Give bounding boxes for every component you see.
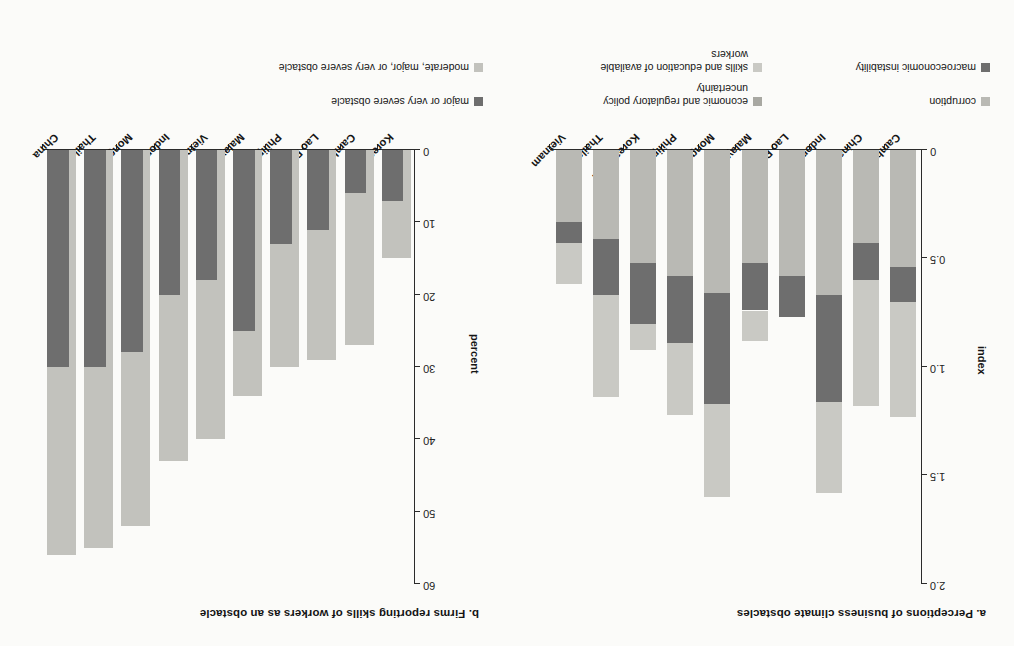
y-tick-label: 30 xyxy=(423,363,461,375)
bar-stack xyxy=(816,150,842,493)
y-tick xyxy=(922,583,927,584)
bar-segment xyxy=(556,150,582,222)
y-tick-label: 40 xyxy=(423,435,461,447)
legend-swatch-icon xyxy=(753,63,762,72)
bar-segment xyxy=(556,243,582,284)
legend-item[interactable]: macroeconomic instability xyxy=(772,62,990,75)
legend-label: major or very severe obstacle xyxy=(331,96,469,109)
legend-item[interactable]: skills and education of available worker… xyxy=(544,49,762,74)
y-tick-label: 60 xyxy=(423,580,461,592)
bar-segment xyxy=(816,150,842,295)
y-tick-label: 50 xyxy=(423,508,461,520)
panel-a-y-axis-title: index xyxy=(976,346,988,375)
bar-segment xyxy=(779,150,805,276)
bar-segment xyxy=(667,276,693,343)
y-tick-label: 20 xyxy=(423,291,461,303)
y-tick xyxy=(922,475,927,476)
bar-segment xyxy=(630,324,656,350)
y-tick xyxy=(922,258,927,259)
bar-segment xyxy=(816,295,842,401)
bar-stack xyxy=(742,150,768,341)
bar-major-very-severe xyxy=(382,150,404,201)
bar-stack xyxy=(853,150,879,406)
panel-b: b. Firms reporting skills of workers as … xyxy=(0,0,507,646)
legend-label: moderate, major, or very severe obstacle xyxy=(279,62,469,75)
y-tick-label: 0 xyxy=(930,146,968,158)
bar-major-very-severe xyxy=(308,150,330,230)
legend-swatch-icon xyxy=(474,63,483,72)
panel-a-title: a. Perceptions of business climate obsta… xyxy=(737,608,986,620)
bar-stack xyxy=(779,150,805,317)
bar-segment xyxy=(853,150,879,243)
bar-segment xyxy=(890,150,916,267)
bar-segment xyxy=(742,150,768,263)
panel-a-plot: 00.51.01.52.0CambodiaChinaIndonesiaLao P… xyxy=(550,150,922,584)
panel-b-title: b. Firms reporting skills of workers as … xyxy=(200,608,479,620)
legend-swatch-icon xyxy=(753,97,762,106)
bar-stack xyxy=(556,150,582,285)
y-tick-label: 0 xyxy=(423,146,461,158)
bar-major-very-severe xyxy=(196,150,218,280)
y-tick-label: 2.0 xyxy=(930,580,968,592)
bar-segment xyxy=(853,280,879,406)
y-tick xyxy=(415,294,420,295)
bar-stack xyxy=(667,150,693,415)
bar-segment xyxy=(779,276,805,317)
bar-segment xyxy=(816,402,842,493)
bar-major-very-severe xyxy=(47,150,69,367)
y-tick-label: 10 xyxy=(423,218,461,230)
bar-major-very-severe xyxy=(233,150,255,331)
panel-b-plot: 0102030405060Korea, Rep.CambodiaLao PDRP… xyxy=(43,150,415,584)
bar-segment xyxy=(593,150,619,239)
bar-segment xyxy=(667,150,693,276)
panel-b-y-axis-title: percent xyxy=(469,334,481,374)
legend-item[interactable]: moderate, major, or very severe obstacle xyxy=(193,62,483,75)
bar-segment xyxy=(890,267,916,302)
figure-root: a. Perceptions of business climate obsta… xyxy=(0,0,1014,646)
bar-major-very-severe xyxy=(159,150,181,295)
legend-label: macroeconomic instability xyxy=(856,62,976,75)
y-tick-label: 0.5 xyxy=(930,255,968,267)
bar-segment xyxy=(853,243,879,280)
bar-stack xyxy=(704,150,730,497)
bar-major-very-severe xyxy=(122,150,144,353)
bar-segment xyxy=(667,343,693,415)
bar-segment xyxy=(593,239,619,295)
y-tick xyxy=(415,366,420,367)
legend-swatch-icon xyxy=(981,97,990,106)
bar-segment xyxy=(630,263,656,324)
bar-segment xyxy=(593,295,619,397)
bar-major-very-severe xyxy=(84,150,106,367)
legend-item[interactable]: economic and regulatory policy uncertain… xyxy=(544,83,762,108)
bar-segment xyxy=(742,311,768,341)
legend-label: skills and education of available worker… xyxy=(600,49,748,74)
bar-major-very-severe xyxy=(270,150,292,244)
y-tick-label: 1.5 xyxy=(930,472,968,484)
bar-segment xyxy=(704,293,730,404)
bar-segment xyxy=(742,263,768,311)
bar-segment xyxy=(890,302,916,417)
y-tick xyxy=(415,221,420,222)
y-tick xyxy=(415,511,420,512)
bar-segment xyxy=(556,222,582,244)
y-tick xyxy=(415,438,420,439)
legend-swatch-icon xyxy=(981,63,990,72)
legend-label: corruption xyxy=(929,96,976,109)
legend-swatch-icon xyxy=(474,97,483,106)
bar-segment xyxy=(704,404,730,497)
bar-stack xyxy=(890,150,916,417)
bar-major-very-severe xyxy=(345,150,367,193)
legend-item[interactable]: major or very severe obstacle xyxy=(193,96,483,109)
y-tick xyxy=(922,366,927,367)
legend-item[interactable]: corruption xyxy=(772,96,990,109)
y-tick xyxy=(415,149,420,150)
bar-stack xyxy=(630,150,656,350)
bar-segment xyxy=(630,150,656,263)
y-tick xyxy=(415,583,420,584)
bar-segment xyxy=(704,150,730,293)
y-tick-label: 1.0 xyxy=(930,363,968,375)
y-tick xyxy=(922,149,927,150)
bar-stack xyxy=(593,150,619,397)
legend-label: economic and regulatory policy uncertain… xyxy=(603,83,748,108)
panel-a: a. Perceptions of business climate obsta… xyxy=(507,0,1014,646)
